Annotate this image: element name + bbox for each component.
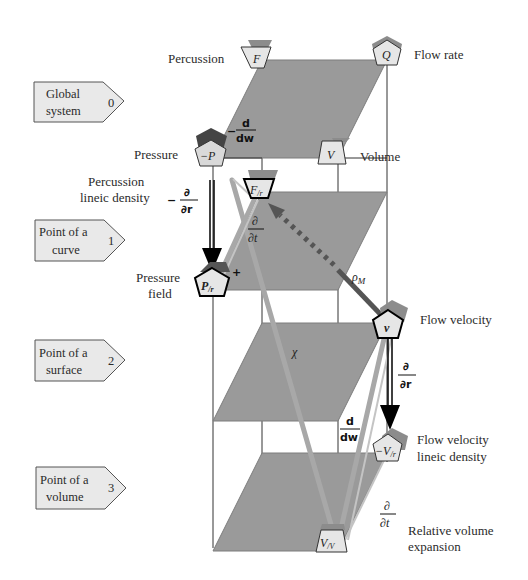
svg-text:∂: ∂: [403, 360, 409, 373]
svg-text:∂t: ∂t: [248, 231, 258, 245]
label-percussion-lineic-2: lineic density: [80, 190, 150, 205]
operator-rho-m: ρM: [351, 270, 366, 286]
node-pressure-field[interactable]: P/r: [195, 262, 230, 296]
label-relative-volume-2: expansion: [408, 539, 461, 554]
level-box-3: Point of a volume 3: [36, 467, 126, 509]
svg-text:∂: ∂: [252, 214, 258, 228]
svg-text:∂r: ∂r: [181, 203, 193, 216]
node-volume[interactable]: V: [318, 138, 350, 164]
svg-text:−: −: [227, 125, 236, 138]
operator-partial-r-right: ∂ ∂r: [398, 360, 416, 391]
svg-text:surface: surface: [46, 363, 83, 377]
svg-text:0: 0: [108, 96, 114, 110]
node-pressure-symbol: −P: [200, 149, 216, 163]
svg-text:∂: ∂: [184, 186, 190, 199]
node-flow-velocity-lineic-sub: /r: [389, 450, 396, 459]
svg-text:∂t: ∂t: [380, 516, 390, 530]
svg-text:volume: volume: [46, 490, 84, 504]
svg-text:Point of a: Point of a: [40, 473, 89, 487]
pressure-to-field-arrow: [202, 180, 222, 272]
operator-d-dw-lower: d dw: [340, 415, 360, 444]
svg-text:∂r: ∂r: [400, 378, 412, 391]
label-relative-volume-1: Relative volume: [408, 523, 494, 538]
svg-text:1: 1: [108, 234, 114, 248]
level-box-0: Global system 0: [34, 82, 124, 122]
label-pressure-field-1: Pressure: [136, 270, 180, 285]
node-percussion-symbol: F: [252, 52, 261, 66]
node-flow-rate-symbol: Q: [382, 48, 391, 62]
svg-text:system: system: [46, 104, 81, 118]
operator-plus: +: [232, 266, 241, 279]
operator-minus-partial-r: − ∂ ∂r: [167, 186, 198, 216]
label-flow-velocity-lineic-1: Flow velocity: [417, 432, 489, 447]
plane-level-3: [213, 453, 387, 551]
plane-level-2: [213, 323, 387, 421]
operator-chi: χ: [291, 345, 298, 359]
svg-text:∂: ∂: [384, 499, 390, 513]
svg-text:curve: curve: [52, 243, 80, 257]
label-flow-velocity-lineic-2: lineic density: [417, 449, 487, 464]
node-pressure-field-sub: /r: [207, 285, 214, 294]
node-flow-velocity[interactable]: v: [373, 300, 408, 338]
level-box-2: Point of a surface 2: [35, 340, 125, 381]
node-relative-volume[interactable]: V/V: [316, 524, 347, 552]
label-pressure: Pressure: [134, 147, 178, 162]
svg-text:Point of a: Point of a: [39, 225, 88, 239]
diagram-canvas: F Q V −P F/r P/r v −V/r: [0, 0, 528, 580]
svg-text:3: 3: [108, 481, 114, 495]
operator-partial-t-lower: ∂ ∂t: [380, 499, 396, 530]
label-volume: Volume: [360, 149, 400, 164]
node-flow-velocity-lineic[interactable]: −V/r: [373, 428, 408, 461]
node-relative-volume-sub: /V: [326, 542, 335, 551]
label-flow-rate: Flow rate: [414, 47, 464, 62]
svg-text:−: −: [167, 194, 176, 207]
label-percussion-lineic-1: Percussion: [88, 174, 145, 189]
svg-text:dw: dw: [340, 431, 358, 444]
svg-text:d: d: [346, 415, 354, 428]
svg-text:Point of a: Point of a: [39, 346, 88, 360]
node-percussion-lineic-sub: /r: [256, 189, 263, 198]
svg-text:2: 2: [108, 354, 114, 368]
svg-text:d: d: [242, 117, 250, 130]
node-flow-rate[interactable]: Q: [372, 36, 402, 65]
level-box-1: Point of a curve 1: [35, 220, 125, 261]
svg-text:Global: Global: [46, 87, 81, 101]
label-pressure-field-2: field: [148, 286, 172, 301]
label-percussion: Percussion: [168, 51, 225, 66]
node-pressure[interactable]: −P: [195, 128, 227, 166]
svg-text:dw: dw: [236, 132, 254, 145]
label-flow-velocity: Flow velocity: [420, 312, 492, 327]
node-flow-velocity-symbol: v: [384, 321, 390, 335]
